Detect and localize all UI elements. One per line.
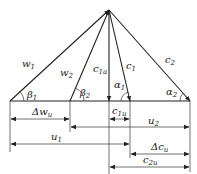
arc-beta1 (20, 92, 24, 101)
label-c1u: c1u (112, 105, 127, 118)
label-beta1: β1 (26, 89, 37, 102)
velocity-triangle-diagram: w1 w2 c1a c1 c2 β1 β2 α1 α2 Δwu c1u u2 u… (0, 0, 197, 174)
label-u1: u1 (51, 131, 62, 144)
label-c2: c2 (165, 54, 176, 67)
label-c2u: c2u (143, 154, 158, 167)
label-delta-wu: Δwu (31, 106, 53, 119)
arc-alpha1 (121, 92, 128, 101)
label-w2: w2 (60, 67, 74, 80)
label-c1: c1 (126, 60, 136, 73)
label-delta-cu: Δcu (150, 141, 169, 154)
label-beta2: β2 (79, 87, 91, 100)
label-alpha2: α2 (166, 86, 178, 99)
vector-w1 (10, 10, 109, 101)
label-w1: w1 (22, 58, 35, 71)
vector-w2 (70, 10, 109, 101)
label-u2: u2 (148, 115, 159, 128)
label-alpha1: α1 (114, 79, 125, 92)
label-c1a: c1a (93, 63, 107, 76)
arc-alpha2 (180, 93, 183, 101)
